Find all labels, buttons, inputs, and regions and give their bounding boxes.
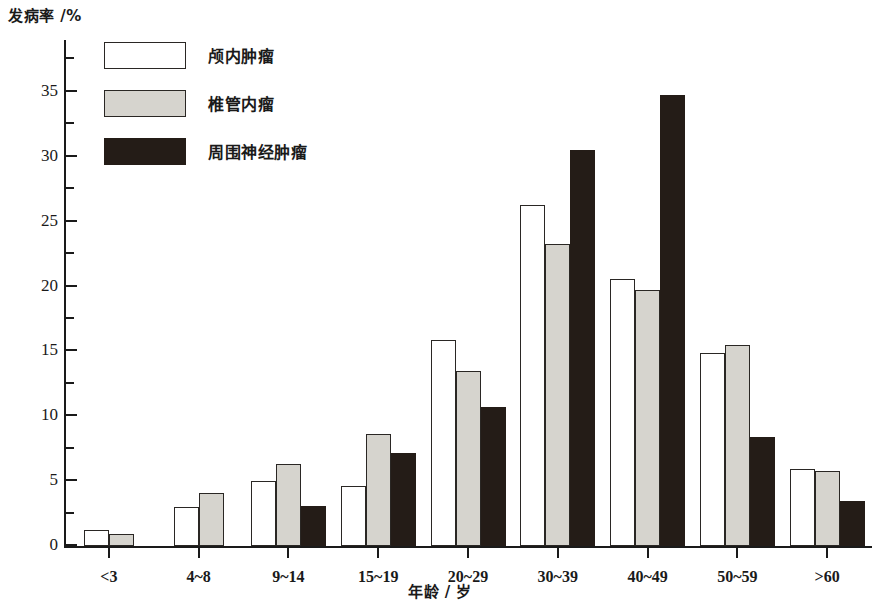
bar bbox=[545, 244, 570, 546]
chart-page: 发病率 /% 05101520253035 <34~89~1415~1920~2… bbox=[0, 0, 880, 609]
bar bbox=[251, 481, 276, 546]
legend-label: 颅内肿瘤 bbox=[208, 43, 274, 67]
legend-swatch bbox=[104, 138, 186, 165]
x-axis-tick bbox=[198, 548, 200, 558]
bar bbox=[840, 501, 865, 546]
y-axis-minor-tick bbox=[66, 57, 74, 59]
y-axis-minor-tick bbox=[66, 122, 74, 124]
x-axis-tick bbox=[826, 548, 828, 558]
y-axis-minor-tick bbox=[66, 187, 74, 189]
y-axis-major-tick: 5 bbox=[66, 479, 77, 481]
y-axis-major-tick: 0 bbox=[66, 544, 77, 546]
bar bbox=[301, 506, 326, 546]
bar bbox=[610, 279, 635, 546]
y-axis-major-tick: 20 bbox=[66, 285, 77, 287]
y-axis-tick-label: 0 bbox=[50, 535, 59, 555]
bar bbox=[520, 205, 545, 546]
x-axis-tick bbox=[647, 548, 649, 558]
y-axis-tick-label: 35 bbox=[41, 81, 58, 101]
bar bbox=[276, 464, 301, 546]
y-axis-minor-tick bbox=[66, 252, 74, 254]
y-axis-minor-tick bbox=[66, 382, 74, 384]
bar bbox=[456, 371, 481, 546]
bar bbox=[174, 507, 199, 546]
y-axis-line bbox=[64, 40, 66, 548]
legend-swatch bbox=[104, 42, 186, 69]
bar bbox=[431, 340, 456, 546]
y-axis-minor-tick bbox=[66, 447, 74, 449]
x-axis-tick bbox=[736, 548, 738, 558]
bar bbox=[750, 437, 775, 546]
bar bbox=[790, 469, 815, 546]
bar bbox=[109, 534, 134, 546]
y-axis-major-tick: 35 bbox=[66, 90, 77, 92]
y-axis-tick-label: 10 bbox=[41, 405, 58, 425]
legend-item: 周围神经肿瘤 bbox=[104, 134, 334, 168]
bar bbox=[199, 493, 224, 546]
y-axis-major-tick: 10 bbox=[66, 414, 77, 416]
bar bbox=[815, 471, 840, 546]
bar bbox=[700, 353, 725, 546]
x-axis-tick bbox=[108, 548, 110, 558]
bar bbox=[366, 434, 391, 546]
bar bbox=[341, 486, 366, 546]
y-axis-tick-label: 30 bbox=[41, 146, 58, 166]
bar bbox=[570, 150, 595, 546]
legend-label: 椎管内瘤 bbox=[208, 91, 274, 115]
x-axis-tick bbox=[377, 548, 379, 558]
legend: 颅内肿瘤椎管内瘤周围神经肿瘤 bbox=[104, 38, 334, 182]
x-axis-tick bbox=[557, 548, 559, 558]
y-axis-minor-tick bbox=[66, 512, 74, 514]
bar bbox=[391, 453, 416, 546]
bar bbox=[481, 407, 506, 546]
bar bbox=[725, 345, 750, 546]
legend-item: 椎管内瘤 bbox=[104, 86, 334, 120]
bar bbox=[635, 290, 660, 546]
x-axis-tick bbox=[287, 548, 289, 558]
y-axis-major-tick: 25 bbox=[66, 220, 77, 222]
legend-swatch bbox=[104, 90, 186, 117]
bar bbox=[84, 530, 109, 546]
y-axis-tick-label: 15 bbox=[41, 340, 58, 360]
y-axis-major-tick: 15 bbox=[66, 349, 77, 351]
x-axis-tick bbox=[467, 548, 469, 558]
legend-label: 周围神经肿瘤 bbox=[208, 139, 307, 163]
bar bbox=[660, 95, 685, 547]
y-axis-tick-label: 25 bbox=[41, 211, 58, 231]
y-axis-tick-label: 5 bbox=[50, 470, 59, 490]
y-axis-title: 发病率 /% bbox=[8, 4, 82, 25]
x-axis-title: 年龄 / 岁 bbox=[0, 580, 880, 601]
y-axis-major-tick: 30 bbox=[66, 155, 77, 157]
legend-item: 颅内肿瘤 bbox=[104, 38, 334, 72]
y-axis-minor-tick bbox=[66, 317, 74, 319]
y-axis-tick-label: 20 bbox=[41, 276, 58, 296]
